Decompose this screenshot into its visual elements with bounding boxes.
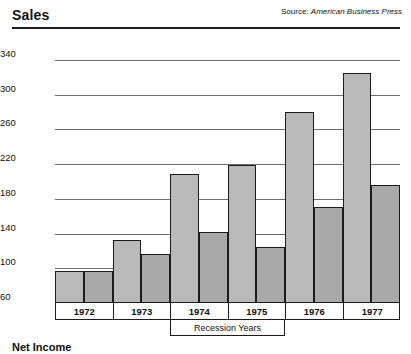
y-axis-tick-label: 180 — [0, 187, 46, 198]
header-divider — [12, 27, 400, 29]
recession-years-label: Recession Years — [194, 323, 261, 333]
chart-header: Sales Source: American Business Press — [0, 0, 411, 30]
y-axis-tick-label: 300 — [0, 83, 46, 94]
plot-area: 60100140180220260300340 — [55, 60, 400, 303]
bar-1974-bar-a — [170, 174, 199, 303]
bar-1972-bar-a — [55, 271, 84, 303]
year-label-1975: 1975 — [229, 303, 287, 319]
y-axis-tick-label: 60 — [0, 291, 46, 302]
year-label-1972: 1972 — [56, 303, 114, 319]
recession-years-bracket: Recession Years — [170, 320, 285, 336]
y-axis-tick-label: 260 — [0, 117, 46, 128]
bar-1973-bar-b — [141, 254, 170, 303]
bar-1972-bar-b — [84, 271, 113, 303]
source-label: Source: — [281, 7, 309, 16]
y-axis-tick-label: 100 — [0, 256, 46, 267]
year-label-1977: 1977 — [344, 303, 402, 319]
bar-1977-bar-b — [371, 185, 400, 303]
y-axis-tick-label: 340 — [0, 48, 46, 59]
y-axis-tick-label: 220 — [0, 152, 46, 163]
year-label-1976: 1976 — [286, 303, 344, 319]
bar-1973-bar-a — [113, 240, 142, 303]
y-axis-tick-label: 140 — [0, 222, 46, 233]
year-label-1973: 1973 — [114, 303, 172, 319]
bar-1977-bar-a — [343, 73, 372, 303]
source-credit: Source: American Business Press — [281, 7, 402, 16]
bar-1976-bar-b — [314, 207, 343, 303]
gridline — [55, 60, 400, 61]
page-title: Sales — [12, 7, 50, 23]
year-label-1974: 1974 — [171, 303, 229, 319]
bar-1974-bar-b — [199, 232, 228, 303]
next-section-title: Net Income — [12, 341, 71, 353]
year-axis: 197219731974197519761977 — [55, 303, 400, 320]
bar-1976-bar-a — [285, 112, 314, 303]
bar-1975-bar-a — [228, 165, 257, 303]
source-name: American Business Press — [311, 7, 402, 16]
bar-1975-bar-b — [256, 247, 285, 303]
